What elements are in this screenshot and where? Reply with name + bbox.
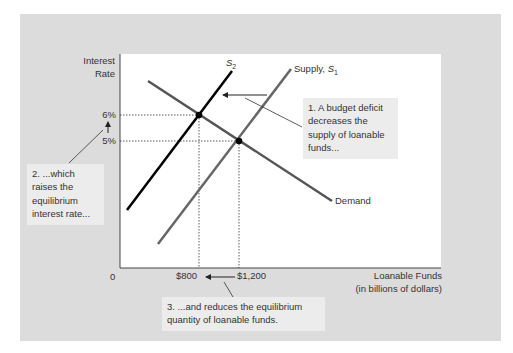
x-axis-label-line1: Loanable Funds <box>330 270 442 283</box>
plot-area <box>120 54 441 268</box>
x-axis-label: Loanable Funds (in billions of dollars) <box>330 270 442 295</box>
note-budget-deficit: 1. A budget deficit decreases the supply… <box>303 98 398 159</box>
demand-label: Demand <box>335 195 371 208</box>
s1-label: Supply, S1 <box>294 63 338 79</box>
note2-line1: 2. ...which <box>32 167 99 180</box>
note3-leader <box>224 282 233 297</box>
y-axis-label-line1: Interest <box>60 55 115 68</box>
s1-subscript: 1 <box>334 69 338 76</box>
x-tick-800: $800 <box>176 270 197 283</box>
y-tick-5pct: 5% <box>90 135 116 148</box>
note1-line2: decreases the <box>308 114 393 127</box>
note2-line2: raises the <box>32 180 99 193</box>
x-tick-1200: $1,200 <box>237 270 266 283</box>
note2-line3: equilibrium <box>32 194 99 207</box>
note-raises-rate: 2. ...which raises the equilibrium inter… <box>27 164 104 225</box>
note3-line2: quantity of loanable funds. <box>167 313 320 326</box>
note-reduces-quantity: 3. ...and reduces the equilibrium quanti… <box>162 297 325 331</box>
note1-line1: 1. A budget deficit <box>308 101 393 114</box>
note2-line4: interest rate... <box>32 207 99 220</box>
s1-prefix: Supply, <box>294 63 328 74</box>
note3-line1: 3. ...and reduces the equilibrium <box>167 300 320 313</box>
note1-line4: funds... <box>308 141 393 154</box>
origin-label: 0 <box>110 271 115 284</box>
s2-label: S2 <box>226 57 236 73</box>
s2-subscript: 2 <box>232 63 236 70</box>
note1-line3: supply of loanable <box>308 128 393 141</box>
y-tick-6pct: 6% <box>90 109 116 122</box>
y-axis-label: Interest Rate <box>60 55 115 80</box>
equilibrium-new-point <box>196 112 203 119</box>
x-axis-label-line2: (in billions of dollars) <box>330 283 442 296</box>
y-axis-label-line2: Rate <box>60 68 115 81</box>
equilibrium-initial-point <box>236 138 243 145</box>
